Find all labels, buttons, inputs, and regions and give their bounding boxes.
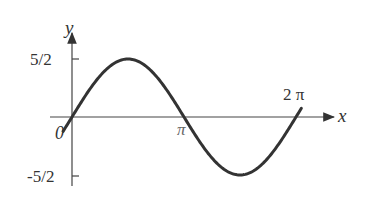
origin-label: 0: [55, 124, 64, 142]
sine-plot: [0, 0, 369, 208]
x-tick-label-2pi: 2 π: [283, 86, 304, 103]
y-tick-label-max: 5/2: [30, 51, 52, 68]
x-axis-label: x: [338, 106, 346, 125]
y-axis-label: y: [65, 18, 73, 37]
x-tick-label-pi: π: [177, 121, 186, 138]
y-tick-label-min: -5/2: [27, 168, 54, 185]
